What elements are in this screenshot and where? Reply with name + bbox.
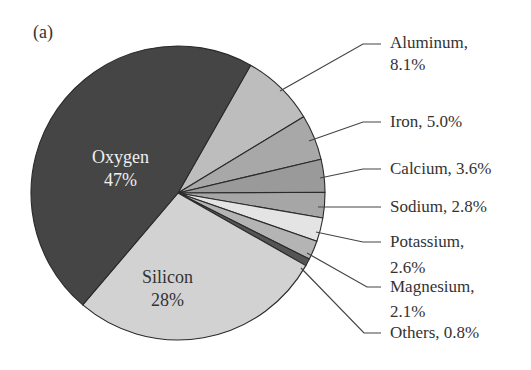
- magnesium-percent: 2.1%: [390, 301, 475, 323]
- panel-label: (a): [33, 22, 53, 43]
- leader-line-aluminum: [280, 44, 381, 91]
- magnesium-name: Magnesium,: [390, 276, 475, 298]
- potassium-label: Potassium, 2.6%: [390, 231, 464, 279]
- leader-line-iron: [309, 122, 381, 141]
- leader-line-magnesium: [307, 253, 381, 287]
- potassium-name: Potassium,: [390, 231, 464, 253]
- leader-line-others: [301, 268, 381, 333]
- others-label: Others, 0.8%: [390, 322, 479, 344]
- silicon-name: Silicon: [142, 266, 193, 289]
- leader-line-calcium: [320, 169, 381, 178]
- others-text: Others, 0.8%: [390, 322, 479, 344]
- aluminum-name: Aluminum,: [390, 32, 468, 54]
- calcium-text: Calcium, 3.6%: [390, 158, 492, 180]
- oxygen-name: Oxygen: [92, 146, 149, 169]
- sodium-label: Sodium, 2.8%: [390, 196, 487, 218]
- silicon-percent: 28%: [142, 289, 193, 312]
- calcium-label: Calcium, 3.6%: [390, 158, 492, 180]
- silicon-label: Silicon 28%: [142, 266, 193, 312]
- aluminum-percent: 8.1%: [390, 54, 468, 76]
- magnesium-label: Magnesium, 2.1%: [390, 276, 475, 323]
- iron-text: Iron, 5.0%: [390, 111, 462, 133]
- aluminum-label: Aluminum, 8.1%: [390, 32, 468, 76]
- leader-line-potassium: [316, 232, 381, 242]
- oxygen-label: Oxygen 47%: [92, 146, 149, 192]
- oxygen-percent: 47%: [92, 169, 149, 192]
- sodium-text: Sodium, 2.8%: [390, 196, 487, 218]
- iron-label: Iron, 5.0%: [390, 111, 462, 133]
